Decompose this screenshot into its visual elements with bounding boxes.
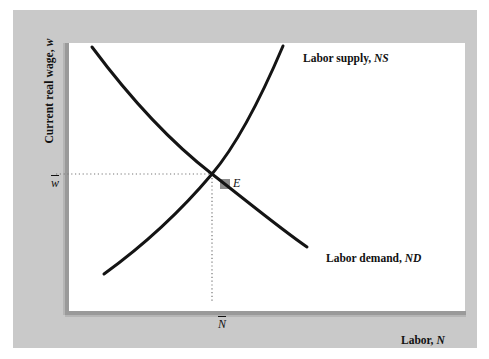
- y-axis-label-roman: Current real wage,: [43, 49, 55, 143]
- wage-bar-tick-label: w: [51, 176, 59, 191]
- plot-area: [68, 43, 465, 312]
- labor-demand-annotation: Labor demand, ND: [326, 252, 421, 264]
- y-axis-line: [65, 43, 69, 315]
- chart-figure: Current real wage, w Labor, N Labor supp…: [0, 0, 489, 359]
- labor-bar-tick-label: N: [218, 317, 226, 332]
- x-axis-label: Labor, N: [401, 334, 445, 346]
- labor-supply-annotation: Labor supply, NS: [303, 52, 389, 64]
- equilibrium-marker: [220, 179, 230, 189]
- equilibrium-label: E: [233, 176, 240, 191]
- labor-demand-annotation-italic: ND: [405, 252, 422, 264]
- y-axis-label: Current real wage, w: [43, 11, 55, 171]
- wage-bar-glyph: w: [51, 176, 59, 190]
- labor-supply-annotation-italic: NS: [374, 52, 389, 64]
- labor-supply-annotation-roman: Labor supply,: [303, 52, 371, 64]
- x-axis-label-roman: Labor,: [401, 334, 434, 346]
- y-axis-label-italic: w: [43, 38, 55, 46]
- x-axis-shadow: [65, 315, 466, 317]
- labor-bar-glyph: N: [218, 317, 226, 331]
- figure-panel: Current real wage, w Labor, N Labor supp…: [13, 10, 477, 348]
- labor-demand-annotation-roman: Labor demand,: [326, 252, 402, 264]
- x-axis-label-italic: N: [436, 334, 444, 346]
